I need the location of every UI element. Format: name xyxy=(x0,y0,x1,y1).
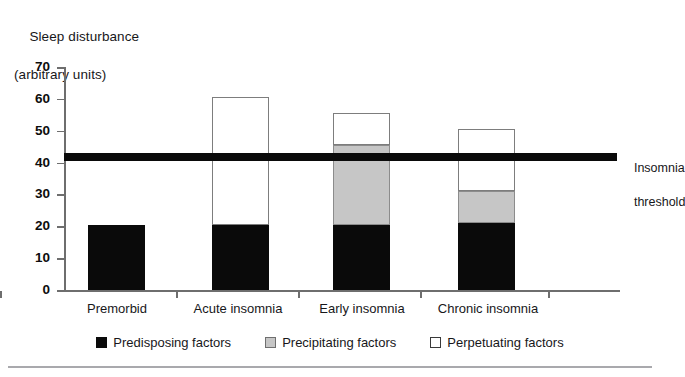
x-tick-mark-1 xyxy=(176,291,178,298)
legend-label-precipitating: Precipitating factors xyxy=(282,335,396,350)
y-tick-mark-60 xyxy=(57,99,64,101)
y-tick-mark-40 xyxy=(57,163,64,165)
x-label-chronic-insomnia: Chronic insomnia xyxy=(425,301,551,317)
x-tick-mark-2 xyxy=(298,291,300,298)
legend-item-predisposing[interactable]: Predisposing factors xyxy=(96,335,231,350)
bar-segment-predisposing[interactable] xyxy=(212,225,269,290)
threshold-label-line-2: threshold xyxy=(634,195,685,209)
x-axis-line xyxy=(64,290,620,292)
x-label-acute-insomnia: Acute insomnia xyxy=(178,301,298,317)
legend-item-precipitating[interactable]: Precipitating factors xyxy=(265,335,396,350)
y-tick-mark-0 xyxy=(57,290,64,292)
y-tick-label-50: 50 xyxy=(24,124,50,138)
x-label-premorbid: Premorbid xyxy=(58,301,176,317)
bar-acute-insomnia[interactable] xyxy=(212,97,269,290)
y-tick-mark-10 xyxy=(57,258,64,260)
y-tick-label-20: 20 xyxy=(24,219,50,233)
x-tick-mark-4 xyxy=(548,291,550,298)
y-tick-label-40: 40 xyxy=(24,156,50,170)
y-axis-title-line-1: Sleep disturbance xyxy=(29,29,139,44)
insomnia-threshold-line xyxy=(64,153,617,161)
y-tick-mark-30 xyxy=(57,194,64,196)
legend-label-perpetuating: Perpetuating factors xyxy=(447,335,563,350)
legend-swatch-icon-precipitating xyxy=(265,337,276,348)
x-label-early-insomnia: Early insomnia xyxy=(302,301,422,317)
insomnia-threshold-label: Insomnia threshold xyxy=(620,143,685,228)
bar-segment-predisposing[interactable] xyxy=(333,225,390,290)
bar-segment-predisposing[interactable] xyxy=(458,223,515,290)
x-tick-mark-3 xyxy=(420,291,422,298)
bottom-divider xyxy=(8,366,652,368)
y-tick-label-0: 0 xyxy=(24,283,50,297)
y-tick-label-10: 10 xyxy=(24,251,50,265)
y-tick-label-70: 70 xyxy=(24,60,50,74)
legend-label-predisposing: Predisposing factors xyxy=(113,335,231,350)
threshold-label-line-1: Insomnia xyxy=(634,161,685,175)
y-tick-mark-50 xyxy=(57,131,64,133)
legend-swatch-icon-predisposing xyxy=(96,337,107,348)
bar-segment-perpetuating[interactable] xyxy=(333,113,390,145)
y-tick-label-30: 30 xyxy=(24,187,50,201)
y-tick-mark-20 xyxy=(57,226,64,228)
bar-segment-precipitating[interactable] xyxy=(458,191,515,223)
legend-swatch-icon-perpetuating xyxy=(430,337,441,348)
y-axis-line xyxy=(64,67,66,291)
legend-item-perpetuating[interactable]: Perpetuating factors xyxy=(430,335,563,350)
y-tick-label-60: 60 xyxy=(24,92,50,106)
y-tick-mark-70 xyxy=(57,67,64,69)
bar-early-insomnia[interactable] xyxy=(333,113,390,290)
bar-segment-predisposing[interactable] xyxy=(88,225,145,290)
bar-premorbid[interactable] xyxy=(88,225,145,290)
chart-legend: Predisposing factors Precipitating facto… xyxy=(0,335,660,350)
